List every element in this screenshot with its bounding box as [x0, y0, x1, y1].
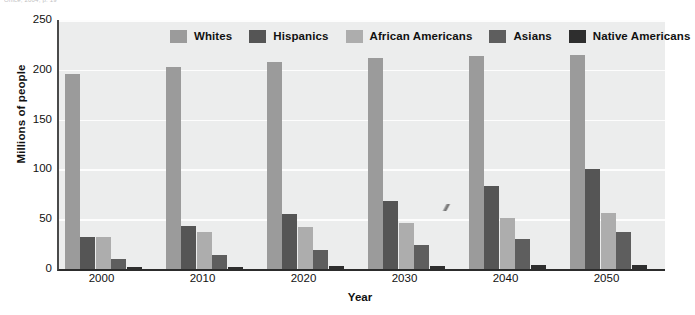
x-tick-label: 2000 [89, 272, 115, 284]
bar[interactable] [368, 58, 383, 269]
bar[interactable] [313, 250, 328, 269]
x-tick-label: 2050 [594, 272, 620, 284]
y-tick-label: 250 [18, 14, 52, 26]
bar[interactable] [531, 265, 546, 269]
bar[interactable] [111, 259, 126, 269]
plot-area [57, 20, 665, 271]
legend-label: African Americans [370, 30, 473, 42]
legend-swatch-icon [249, 30, 266, 43]
y-tick-label: 200 [18, 64, 52, 76]
legend-label: Asians [513, 30, 551, 42]
bar[interactable] [181, 226, 196, 269]
bar[interactable] [585, 169, 600, 269]
y-tick-label: 50 [18, 213, 52, 225]
x-tick-label: 2020 [291, 272, 317, 284]
bar[interactable] [267, 62, 282, 269]
bar-group [261, 20, 362, 269]
legend-item[interactable]: Whites [170, 30, 232, 43]
bar[interactable] [65, 74, 80, 269]
bar-group [564, 20, 665, 269]
y-axis-tick-labels: 050100150200250 [14, 0, 52, 315]
bar[interactable] [601, 213, 616, 269]
y-tick-label: 100 [18, 163, 52, 175]
legend-item[interactable]: African Americans [346, 30, 473, 43]
legend-label: Native Americans [593, 30, 691, 42]
bar[interactable] [298, 227, 313, 269]
y-tick-label: 150 [18, 114, 52, 126]
bar[interactable] [616, 232, 631, 269]
bar[interactable] [212, 255, 227, 269]
bar[interactable] [228, 267, 243, 269]
bar[interactable] [282, 214, 297, 269]
legend-label: Whites [194, 30, 232, 42]
bar[interactable] [500, 218, 515, 269]
bar[interactable] [469, 56, 484, 269]
legend-item[interactable]: Hispanics [249, 30, 328, 43]
legend-swatch-icon [170, 30, 187, 43]
bar[interactable] [414, 245, 429, 269]
y-tick-label: 0 [18, 263, 52, 275]
bar-group [59, 20, 160, 269]
legend-swatch-icon [346, 30, 363, 43]
bar[interactable] [80, 237, 95, 269]
bar[interactable] [570, 55, 585, 269]
bar[interactable] [96, 237, 111, 269]
x-tick-label: 2040 [493, 272, 519, 284]
bar[interactable] [127, 267, 142, 269]
legend-label: Hispanics [273, 30, 328, 42]
x-tick-label: 2030 [392, 272, 418, 284]
bar[interactable] [197, 232, 212, 269]
x-axis-tick-labels: 200020102020203020402050 [57, 272, 663, 290]
bar-group [160, 20, 261, 269]
legend-swatch-icon [489, 30, 506, 43]
bar[interactable] [515, 239, 530, 269]
x-axis-title: Year [57, 291, 663, 303]
bar-group [463, 20, 564, 269]
legend-item[interactable]: Native Americans [569, 30, 691, 43]
x-tick-label: 2010 [190, 272, 216, 284]
chart-legend: WhitesHispanicsAfrican AmericansAsiansNa… [170, 28, 695, 44]
bar[interactable] [329, 266, 344, 269]
bar[interactable] [383, 201, 398, 269]
bar[interactable] [484, 186, 499, 269]
bar[interactable] [632, 265, 647, 269]
legend-swatch-icon [569, 30, 586, 43]
legend-item[interactable]: Asians [489, 30, 551, 43]
bar[interactable] [399, 223, 414, 269]
bar[interactable] [430, 266, 445, 269]
bar[interactable] [166, 67, 181, 269]
plot-inner [59, 20, 665, 269]
bar-group [362, 20, 463, 269]
